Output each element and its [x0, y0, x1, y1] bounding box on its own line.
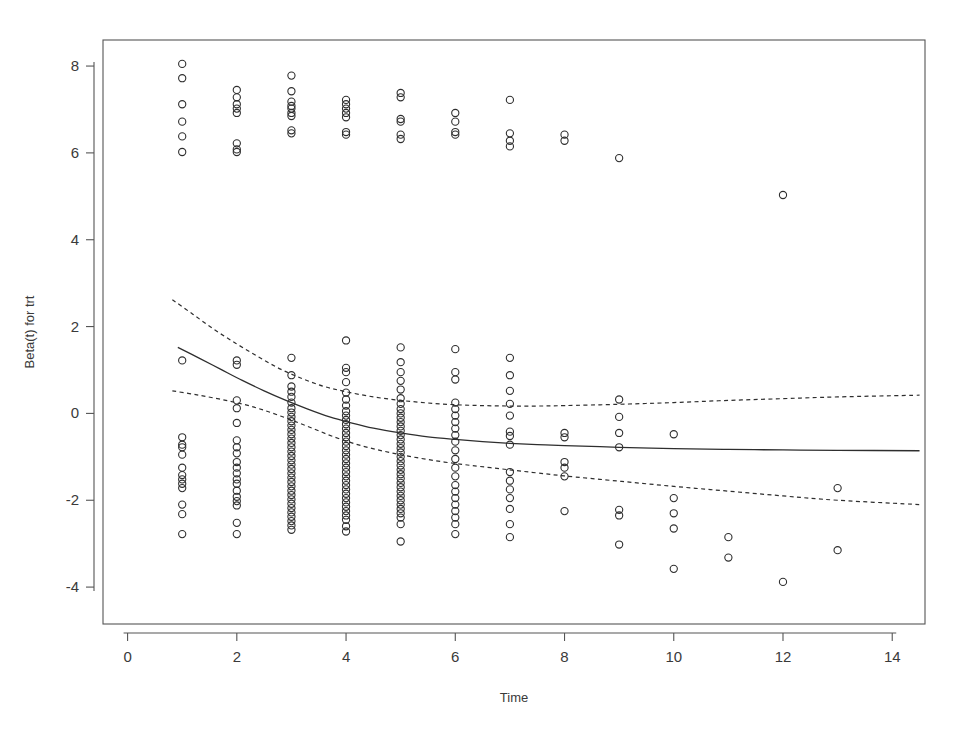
- x-tick-label: 14: [884, 648, 901, 665]
- y-tick-label: -2: [66, 491, 79, 508]
- y-tick-label: 2: [71, 318, 79, 335]
- y-tick-label: 8: [71, 57, 79, 74]
- plot-background: [0, 0, 961, 729]
- x-tick-label: 4: [342, 648, 350, 665]
- figure-container: 02468101214 86420-2-4 TimeBeta(t) for tr…: [0, 0, 961, 729]
- x-tick-label: 12: [775, 648, 792, 665]
- x-tick-label: 2: [233, 648, 241, 665]
- y-tick-label: 0: [71, 404, 79, 421]
- scatter-plot: 02468101214 86420-2-4 TimeBeta(t) for tr…: [0, 0, 961, 729]
- y-tick-label: 6: [71, 144, 79, 161]
- x-tick-label: 10: [665, 648, 682, 665]
- y-tick-label: -4: [66, 578, 79, 595]
- y-axis-title: Beta(t) for trt: [22, 295, 37, 368]
- x-tick-label: 0: [123, 648, 131, 665]
- x-tick-label: 8: [560, 648, 568, 665]
- x-tick-label: 6: [451, 648, 459, 665]
- x-axis-title: Time: [500, 690, 528, 705]
- y-tick-label: 4: [71, 231, 79, 248]
